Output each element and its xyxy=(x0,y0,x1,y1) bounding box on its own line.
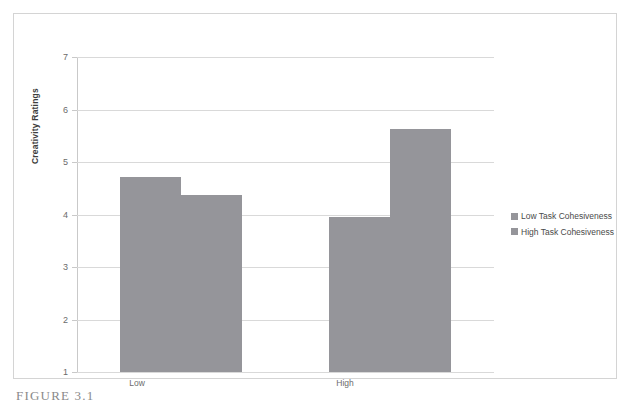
y-axis-tick xyxy=(72,110,77,111)
y-axis-tick xyxy=(72,267,77,268)
y-axis-tick-label: 7 xyxy=(50,53,68,62)
y-axis-tick xyxy=(72,215,77,216)
legend-swatch-icon xyxy=(511,213,518,220)
figure-caption: FIGURE 3.1 xyxy=(16,388,94,407)
figure-frame: Creativity Ratings 1234567 Low High Low … xyxy=(13,13,617,379)
plot-area xyxy=(77,57,494,372)
gridline xyxy=(77,110,494,111)
y-axis-tick-label: 6 xyxy=(50,106,68,115)
bar-high-low-task-cohesiveness[interactable] xyxy=(329,217,390,372)
bar-high-high-task-cohesiveness[interactable] xyxy=(390,129,451,372)
legend-swatch-icon xyxy=(511,228,518,235)
y-axis-tick xyxy=(72,162,77,163)
bar-low-high-task-cohesiveness[interactable] xyxy=(181,195,242,372)
legend-label: Low Task Cohesiveness xyxy=(521,212,612,221)
y-axis-tick-label: 2 xyxy=(50,316,68,325)
x-axis-label-low: Low xyxy=(77,378,197,388)
bar-low-low-task-cohesiveness[interactable] xyxy=(120,177,181,372)
gridline xyxy=(77,372,494,373)
legend-item-high-task-cohesiveness[interactable]: High Task Cohesiveness xyxy=(511,228,614,237)
legend-item-low-task-cohesiveness[interactable]: Low Task Cohesiveness xyxy=(511,212,614,221)
y-axis-tick-label: 1 xyxy=(50,368,68,377)
y-axis-title: Creativity Ratings xyxy=(30,44,40,164)
x-axis-label-high: High xyxy=(285,378,405,388)
chart-legend: Low Task Cohesiveness High Task Cohesive… xyxy=(511,212,614,243)
y-axis-tick-label: 3 xyxy=(50,263,68,272)
y-axis-tick-label: 4 xyxy=(50,211,68,220)
gridline xyxy=(77,57,494,58)
y-axis-tick xyxy=(72,372,77,373)
y-axis-tick xyxy=(72,57,77,58)
y-axis-tick xyxy=(72,320,77,321)
y-axis-tick-label: 5 xyxy=(50,158,68,167)
legend-label: High Task Cohesiveness xyxy=(521,228,614,237)
